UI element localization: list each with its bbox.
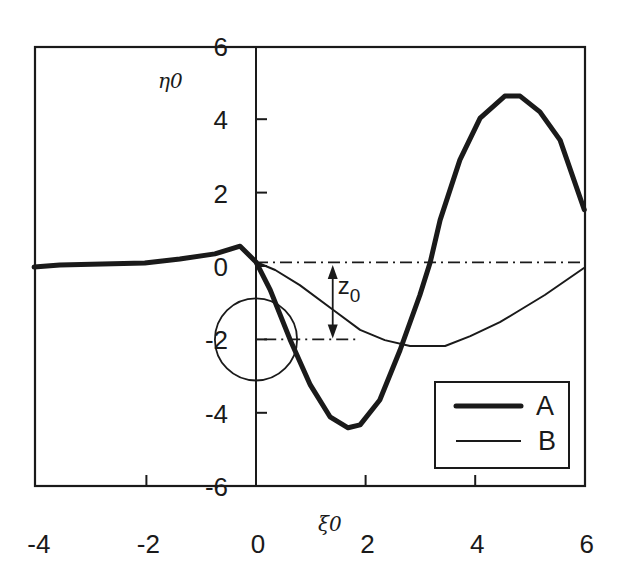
legend-label-a: A [536,391,554,421]
legend-label-b: B [538,426,556,456]
x-axis-title: ξ0 [318,512,342,536]
chart: 6420-2-4-6 -4-20246 z0 η0 ξ0 A B [0,0,624,572]
y-tick-label: 2 [214,179,228,209]
series-b-line [256,262,584,346]
x-tick-label: 4 [470,529,484,559]
x-tick-label: -4 [27,529,50,559]
y-tick-label: 6 [214,32,228,62]
z0-label: z0 [338,272,361,306]
x-tick-label: 2 [360,529,374,559]
legend: A B [435,382,569,468]
y-tick-label: 0 [214,252,228,282]
x-tick-label: -2 [137,529,160,559]
z0-double-arrow [328,265,338,338]
y-axis-title: η0 [158,69,183,93]
x-axis-tick-labels: -4-20246 [27,529,594,559]
x-tick-label: 0 [251,529,265,559]
y-axis-tick-labels: 6420-2-4-6 [205,32,228,502]
y-tick-label: -4 [205,399,228,429]
y-tick-label: 4 [214,105,228,135]
y-tick-label: -6 [205,472,228,502]
x-tick-label: 6 [580,529,594,559]
x-axis-ticks [146,475,475,486]
